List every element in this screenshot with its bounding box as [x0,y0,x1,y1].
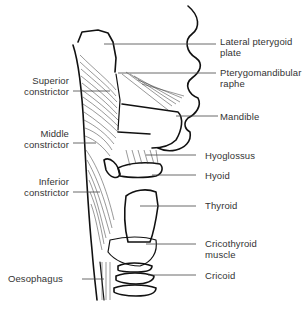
label-line: Middle [24,128,69,139]
label-line: constrictor [24,187,69,198]
label-line: Lateral pterygoid [220,36,292,47]
label-hyoglossus: Hyoglossus [205,150,255,161]
label-superior-constrictor: Superior constrictor [24,75,69,97]
hyoid-horn [104,159,120,178]
label-line: Pterygomandibular [220,67,301,78]
label-mandible: Mandible [220,111,259,122]
label-line: constrictor [24,86,69,97]
label-oesophagus: Oesophagus [8,273,63,284]
label-middle-constrictor: Middle constrictor [24,128,69,150]
label-line: Hyoglossus [205,150,255,161]
cricoid-ring-1 [118,263,152,272]
leader-lines [73,44,218,279]
label-line: raphe [220,78,301,89]
label-line: Inferior [24,176,69,187]
label-cricoid: Cricoid [205,270,235,281]
label-pterygomandibular-raphe: Pterygomandibular raphe [220,67,301,89]
label-line: Mandible [220,111,259,122]
mandible-lower [118,132,150,134]
label-line: Superior [24,75,69,86]
label-hyoid: Hyoid [205,170,230,181]
label-line: muscle [205,249,257,260]
cricoid-ring-3 [114,285,156,296]
label-inferior-constrictor: Inferior constrictor [24,176,69,198]
label-line: Cricoid [205,270,235,281]
label-line: Oesophagus [8,273,63,284]
mandible-outline [122,104,182,148]
label-thyroid: Thyroid [205,200,237,211]
face-profile [158,6,200,151]
label-cricothyroid-muscle: Cricothyroid muscle [205,238,257,260]
label-line: plate [220,47,292,58]
raphe-outline [116,74,120,130]
label-line: Hyoid [205,170,230,181]
label-lateral-pterygoid-plate: Lateral pterygoid plate [220,36,292,58]
label-line: Cricothyroid [205,238,257,249]
thyroid-cartilage [125,190,158,242]
label-line: Thyroid [205,200,237,211]
label-line: constrictor [24,139,69,150]
